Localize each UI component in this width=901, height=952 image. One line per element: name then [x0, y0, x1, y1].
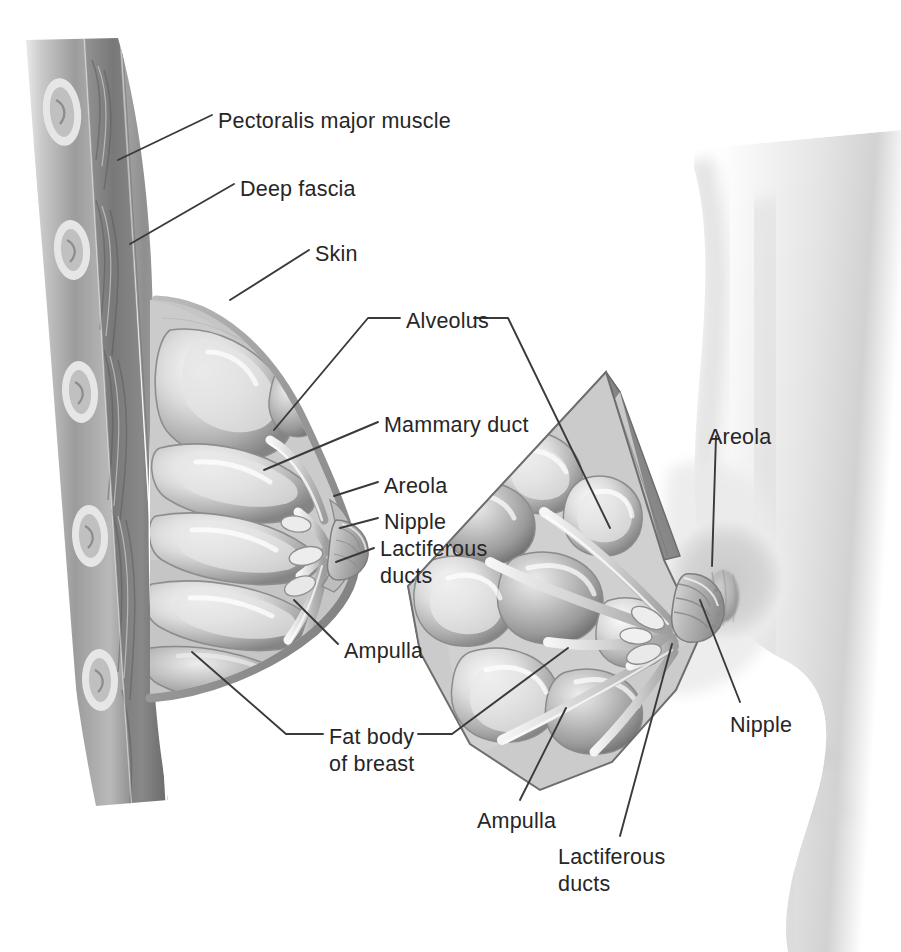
breast-anatomy-figure: Pectoralis major muscle Deep fascia Skin…	[0, 0, 901, 952]
sagittal-breast-section	[140, 290, 370, 710]
anatomy-illustration	[0, 0, 901, 952]
label-areola-left: Areola	[384, 473, 447, 499]
label-lactiferous-ducts-left: Lactiferous ducts	[380, 536, 487, 590]
label-nipple-left: Nipple	[384, 509, 446, 535]
label-pectoralis-major-muscle: Pectoralis major muscle	[218, 108, 451, 134]
label-ampulla-left: Ampulla	[344, 638, 423, 664]
label-mammary-duct: Mammary duct	[384, 412, 529, 438]
label-skin: Skin	[315, 241, 358, 267]
body-profile-view	[650, 130, 901, 952]
label-ampulla-bottom: Ampulla	[477, 808, 556, 834]
label-areola-right: Areola	[708, 424, 771, 450]
label-deep-fascia: Deep fascia	[240, 176, 356, 202]
label-nipple-right: Nipple	[730, 712, 792, 738]
label-lactiferous-ducts-bottom: Lactiferous ducts	[558, 844, 665, 898]
label-fat-body-of-breast: Fat body of breast	[329, 724, 414, 778]
leader-skin	[230, 250, 309, 300]
leader-areola-left	[334, 482, 378, 496]
label-alveolus: Alveolus	[406, 308, 489, 334]
